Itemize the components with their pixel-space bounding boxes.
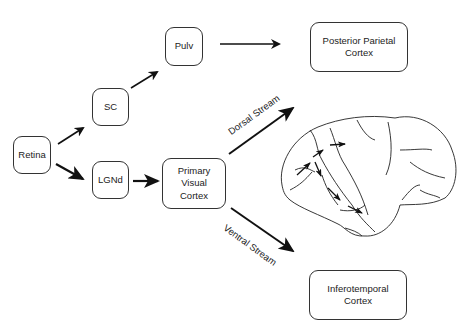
node-lgnd-label: LGNd xyxy=(98,174,123,187)
node-it-line1: Inferotemporal xyxy=(327,283,388,296)
node-retina: Retina xyxy=(13,136,51,174)
node-posterior-parietal-cortex: Posterior Parietal Cortex xyxy=(310,22,408,72)
node-pulv-label: Pulv xyxy=(175,40,193,53)
node-sc: SC xyxy=(92,88,129,126)
node-v1-line1: Primary xyxy=(178,165,211,178)
arrow-retina-sc xyxy=(58,128,83,144)
arrow-retina-lgnd xyxy=(56,164,83,179)
node-ppc-line2: Cortex xyxy=(323,47,396,60)
node-it-line2: Cortex xyxy=(327,295,388,308)
node-inferotemporal-cortex: Inferotemporal Cortex xyxy=(309,270,407,320)
node-ppc-line1: Posterior Parietal xyxy=(323,35,396,48)
node-v1-line2: Visual xyxy=(178,177,211,190)
node-v1-line3: Cortex xyxy=(178,190,211,203)
arrow-sc-pulv xyxy=(131,72,157,88)
brain-illustration xyxy=(281,116,456,236)
node-lgnd: LGNd xyxy=(92,161,129,199)
node-primary-visual-cortex: Primary Visual Cortex xyxy=(162,158,226,209)
node-retina-label: Retina xyxy=(18,149,45,162)
node-sc-label: SC xyxy=(104,101,117,114)
node-pulv: Pulv xyxy=(165,27,203,66)
